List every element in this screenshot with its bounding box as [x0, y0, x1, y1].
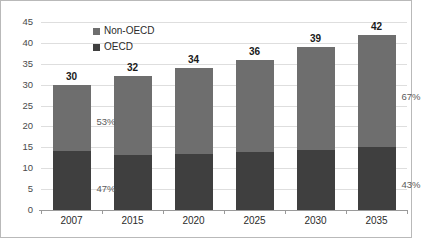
bar-value-label: 42 — [371, 21, 382, 32]
gridline — [41, 106, 407, 107]
bar-group-2020[interactable] — [175, 68, 213, 210]
x-axis-label-2020: 2020 — [182, 215, 204, 226]
bar-segment-non-oecd[interactable] — [175, 68, 213, 154]
y-axis-tick-label: 40 — [22, 38, 33, 48]
bar-value-label: 39 — [310, 33, 321, 44]
bar-segment-non-oecd[interactable] — [53, 85, 91, 151]
x-axis-tick — [163, 210, 164, 214]
y-axis-tick-label: 30 — [22, 80, 33, 90]
chart-legend: Non-OECD OECD — [93, 25, 155, 57]
bar-value-label: 34 — [188, 54, 199, 65]
x-axis-label-2035: 2035 — [365, 215, 387, 226]
bar-segment-non-oecd[interactable] — [114, 76, 152, 155]
bar-segment-oecd[interactable] — [114, 155, 152, 210]
x-axis-label-2025: 2025 — [243, 215, 265, 226]
bar-segment-oecd[interactable] — [53, 151, 91, 210]
bar-segment-non-oecd[interactable] — [358, 35, 396, 147]
x-axis-label-2030: 2030 — [304, 215, 326, 226]
gridline — [41, 64, 407, 65]
bar-segment-non-oecd[interactable] — [297, 47, 335, 150]
x-axis-tick — [407, 210, 408, 214]
percentage-annotation-oecd: 47% — [97, 183, 116, 194]
bar-value-label: 30 — [66, 71, 77, 82]
bar-segment-oecd[interactable] — [236, 152, 274, 210]
bar-segment-oecd[interactable] — [175, 154, 213, 210]
y-axis-tick-label: 0 — [28, 205, 33, 215]
bar-value-label: 32 — [127, 62, 138, 73]
y-axis-tick-label: 20 — [22, 122, 33, 132]
y-axis-tick-label: 25 — [22, 101, 33, 111]
y-axis-tick-label: 45 — [22, 17, 33, 27]
percentage-annotation-non-oecd: 67% — [402, 91, 421, 102]
x-axis-label-2015: 2015 — [121, 215, 143, 226]
gridline — [41, 168, 407, 169]
x-axis-tick — [346, 210, 347, 214]
legend-swatch-oecd-icon — [93, 44, 100, 51]
legend-item-oecd[interactable]: OECD — [93, 41, 155, 53]
bar-group-2035[interactable] — [358, 35, 396, 210]
bar-group-2030[interactable] — [297, 47, 335, 210]
bar-group-2025[interactable] — [236, 60, 274, 210]
chart-container: 051015202530354045 30323436394253%47%67%… — [0, 0, 412, 238]
x-axis-tick — [102, 210, 103, 214]
bar-group-2015[interactable] — [114, 76, 152, 210]
y-axis-tick-label: 10 — [22, 163, 33, 173]
y-axis-tick-label: 35 — [22, 59, 33, 69]
bar-segment-oecd[interactable] — [297, 150, 335, 210]
y-axis-tick-label: 15 — [22, 143, 33, 153]
x-axis-tick — [285, 210, 286, 214]
legend-label-oecd: OECD — [104, 42, 133, 52]
legend-label-non-oecd: Non-OECD — [104, 26, 155, 36]
x-axis-tick — [224, 210, 225, 214]
gridline — [41, 22, 407, 23]
percentage-annotation-oecd: 43% — [402, 179, 421, 190]
gridline — [41, 85, 407, 86]
x-axis-labels: 200720152020202520302035 — [41, 215, 407, 235]
percentage-annotation-non-oecd: 53% — [97, 116, 116, 127]
y-axis-tick-label: 5 — [28, 184, 33, 194]
bar-group-2007[interactable] — [53, 85, 91, 210]
legend-item-non-oecd[interactable]: Non-OECD — [93, 25, 155, 37]
bar-value-label: 36 — [249, 46, 260, 57]
gridline — [41, 147, 407, 148]
bar-segment-oecd[interactable] — [358, 147, 396, 210]
y-axis: 051015202530354045 — [1, 22, 37, 210]
x-axis-label-2007: 2007 — [60, 215, 82, 226]
legend-swatch-non-oecd-icon — [93, 28, 100, 35]
x-axis-tick — [41, 210, 42, 214]
bar-segment-non-oecd[interactable] — [236, 60, 274, 152]
